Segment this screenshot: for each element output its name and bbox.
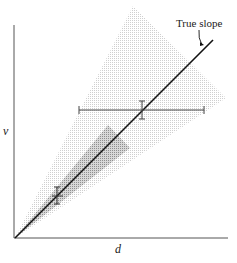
y-axis-label: v: [3, 124, 8, 139]
diagram-canvas: [0, 0, 237, 263]
true-slope-annotation: True slope: [176, 17, 222, 29]
x-axis-label: d: [115, 242, 121, 257]
arrowhead-icon: [200, 42, 204, 46]
